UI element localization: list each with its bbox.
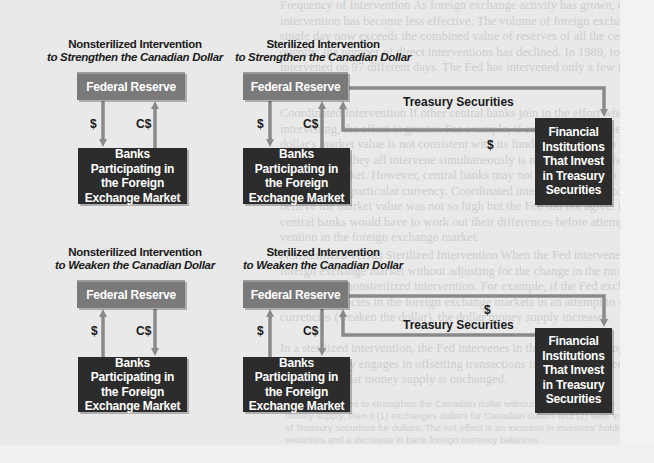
flow-label-cad: C$ — [303, 324, 318, 338]
box-label: Banks Participating in the Foreign Excha… — [247, 147, 347, 205]
financial-institutions-box: Financial Institutions That Invest in Tr… — [535, 328, 612, 413]
banks-fx-market-box: Banks Participating in the Foreign Excha… — [78, 148, 187, 204]
panel-title-sterilized-weaken: Sterilized Intervention to Weaken the Ca… — [208, 246, 438, 272]
panel-title-line2: to Strengthen the Canadian Dollar — [208, 51, 438, 64]
box-label: Financial Institutions That Invest in Tr… — [539, 125, 609, 198]
flow-label-dollar: $ — [257, 117, 264, 131]
banks-fx-market-box: Banks Participating in the Foreign Excha… — [243, 357, 350, 412]
federal-reserve-box: Federal Reserve — [243, 280, 348, 308]
box-label: Banks Participating in the Foreign Excha… — [83, 356, 183, 414]
panel-title-line1: Nonsterilized Intervention — [68, 38, 201, 50]
panel-title-nonsterilized-weaken: Nonsterilized Intervention to Weaken the… — [40, 246, 230, 272]
panel-title-line2: to Strengthen the Canadian Dollar — [40, 51, 230, 64]
flow-label-dollar: $ — [91, 324, 98, 338]
box-label: Federal Reserve — [86, 288, 176, 302]
box-label: Banks Participating in the Foreign Excha… — [83, 147, 183, 205]
federal-reserve-box: Federal Reserve — [243, 72, 348, 100]
box-label: Federal Reserve — [251, 288, 341, 302]
flow-label-treasury-securities: Treasury Securities — [403, 95, 514, 109]
flow-label-dollar: $ — [257, 324, 264, 338]
flow-label-cad: C$ — [136, 324, 151, 338]
panel-title-line1: Sterilized Intervention — [266, 38, 379, 50]
banks-fx-market-box: Banks Participating in the Foreign Excha… — [78, 357, 187, 412]
panel-title-line2: to Weaken the Canadian Dollar — [208, 259, 438, 272]
flow-label-treasury-securities: Treasury Securities — [403, 318, 514, 332]
box-label: Financial Institutions That Invest in Tr… — [539, 334, 609, 407]
flow-label-return-dollar: $ — [484, 303, 491, 317]
box-label: Federal Reserve — [251, 80, 341, 94]
panel-title-sterilized-strengthen: Sterilized Intervention to Strengthen th… — [208, 38, 438, 64]
box-label: Banks Participating in the Foreign Excha… — [247, 356, 347, 414]
panel-title-line2: to Weaken the Canadian Dollar — [40, 259, 230, 272]
federal-reserve-box: Federal Reserve — [77, 280, 185, 308]
box-label: Federal Reserve — [86, 80, 176, 94]
flow-label-cad: C$ — [303, 117, 318, 131]
flow-label-cad: C$ — [136, 117, 151, 131]
panel-title-nonsterilized-strengthen: Nonsterilized Intervention to Strengthen… — [40, 38, 230, 64]
flow-label-return-dollar: $ — [487, 138, 494, 152]
flow-label-dollar: $ — [90, 117, 97, 131]
panel-title-line1: Sterilized Intervention — [266, 246, 379, 258]
banks-fx-market-box: Banks Participating in the Foreign Excha… — [243, 148, 350, 204]
financial-institutions-box: Financial Institutions That Invest in Tr… — [535, 118, 612, 205]
panel-title-line1: Nonsterilized Intervention — [68, 246, 201, 258]
federal-reserve-box: Federal Reserve — [77, 72, 185, 100]
